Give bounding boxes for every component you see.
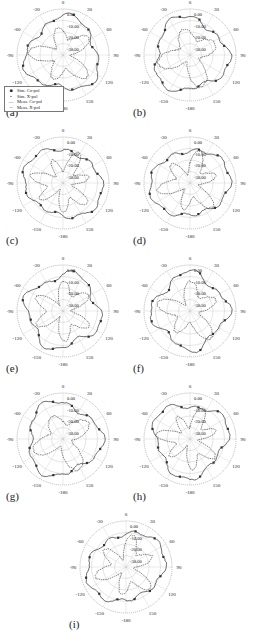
svg-text:120: 120 xyxy=(105,208,113,213)
svg-text:-10.00: -10.00 xyxy=(67,24,80,29)
polar-plot-g: 0306090120150-180-150-120-90-60-300.00-1… xyxy=(0,384,127,509)
svg-text:30: 30 xyxy=(87,135,93,140)
svg-text:0: 0 xyxy=(62,128,65,133)
svg-text:-30.00: -30.00 xyxy=(67,47,80,52)
panel-label: (f) xyxy=(133,362,144,374)
svg-text:-30.00: -30.00 xyxy=(67,303,80,308)
svg-text:60: 60 xyxy=(106,411,112,416)
panel-label: (h) xyxy=(133,490,146,502)
polar-plot-e: 0306090120150-180-150-120-90-60-300.00-1… xyxy=(0,256,127,381)
polar-plot-h: 0306090120150-180-150-120-90-60-300.00-1… xyxy=(127,384,254,509)
svg-text:0: 0 xyxy=(189,384,192,389)
svg-text:150: 150 xyxy=(213,227,221,232)
panel-label: (c) xyxy=(6,234,18,246)
svg-text:90: 90 xyxy=(114,181,120,186)
svg-text:-90: -90 xyxy=(7,437,14,442)
svg-text:90: 90 xyxy=(114,53,120,58)
panel-label: (i) xyxy=(69,618,79,630)
svg-text:120: 120 xyxy=(232,80,240,85)
svg-text:-150: -150 xyxy=(32,355,42,360)
svg-text:0.00: 0.00 xyxy=(194,396,203,401)
svg-text:120: 120 xyxy=(232,336,240,341)
svg-text:150: 150 xyxy=(86,355,94,360)
svg-text:60: 60 xyxy=(106,283,112,288)
svg-text:30: 30 xyxy=(214,391,220,396)
svg-text:0: 0 xyxy=(62,256,65,261)
panel-label: (d) xyxy=(133,234,146,246)
svg-text:-30.00: -30.00 xyxy=(194,175,207,180)
svg-text:30: 30 xyxy=(87,263,93,268)
svg-text:90: 90 xyxy=(241,181,247,186)
svg-text:-120: -120 xyxy=(13,80,23,85)
svg-text:-120: -120 xyxy=(140,464,150,469)
svg-text:-150: -150 xyxy=(95,611,105,616)
svg-text:-180: -180 xyxy=(185,362,195,367)
svg-text:-30: -30 xyxy=(160,263,167,268)
svg-text:0.00: 0.00 xyxy=(67,396,76,401)
svg-text:-60: -60 xyxy=(14,283,21,288)
svg-text:-30: -30 xyxy=(160,135,167,140)
polar-plot-b: 0306090120150-180-150-120-90-60-300.00-1… xyxy=(127,0,254,125)
svg-text:-20.00: -20.00 xyxy=(67,35,80,40)
svg-text:0: 0 xyxy=(125,512,128,517)
svg-text:60: 60 xyxy=(106,27,112,32)
svg-text:-180: -180 xyxy=(58,362,68,367)
svg-text:-90: -90 xyxy=(70,565,77,570)
polar-plot-c: 0306090120150-180-150-120-90-60-300.00-1… xyxy=(0,128,127,253)
svg-text:-180: -180 xyxy=(121,618,131,623)
svg-text:-30: -30 xyxy=(33,7,40,12)
svg-text:-120: -120 xyxy=(140,336,150,341)
svg-text:0: 0 xyxy=(62,384,65,389)
svg-text:-120: -120 xyxy=(13,464,23,469)
svg-text:-30.00: -30.00 xyxy=(130,559,143,564)
svg-text:-120: -120 xyxy=(13,208,23,213)
svg-text:120: 120 xyxy=(232,464,240,469)
svg-text:0: 0 xyxy=(189,256,192,261)
svg-text:0.00: 0.00 xyxy=(194,140,203,145)
svg-text:-20.00: -20.00 xyxy=(67,419,80,424)
svg-text:-20.00: -20.00 xyxy=(194,419,207,424)
svg-text:120: 120 xyxy=(105,464,113,469)
polar-plot-d: 0306090120150-180-150-120-90-60-300.00-1… xyxy=(127,128,254,253)
svg-text:150: 150 xyxy=(149,611,157,616)
svg-text:90: 90 xyxy=(241,53,247,58)
svg-text:-60: -60 xyxy=(14,27,21,32)
svg-text:-20.00: -20.00 xyxy=(194,291,207,296)
svg-text:-90: -90 xyxy=(134,181,141,186)
svg-text:120: 120 xyxy=(168,592,176,597)
svg-text:-60: -60 xyxy=(141,411,148,416)
svg-text:-30.00: -30.00 xyxy=(194,431,207,436)
svg-text:120: 120 xyxy=(232,208,240,213)
svg-text:-30: -30 xyxy=(33,391,40,396)
svg-text:-10.00: -10.00 xyxy=(67,408,80,413)
svg-text:-150: -150 xyxy=(32,483,42,488)
svg-text:-30: -30 xyxy=(160,391,167,396)
svg-text:90: 90 xyxy=(114,309,120,314)
svg-text:150: 150 xyxy=(213,99,221,104)
svg-text:-120: -120 xyxy=(76,592,86,597)
svg-text:-30.00: -30.00 xyxy=(67,431,80,436)
svg-text:60: 60 xyxy=(233,283,239,288)
svg-text:-30: -30 xyxy=(160,7,167,12)
svg-text:-180: -180 xyxy=(185,106,195,111)
svg-text:-90: -90 xyxy=(7,181,14,186)
svg-text:-60: -60 xyxy=(77,539,84,544)
legend-label: Meas. X-pol xyxy=(17,105,40,111)
svg-text:-150: -150 xyxy=(32,227,42,232)
svg-text:150: 150 xyxy=(213,355,221,360)
svg-text:-90: -90 xyxy=(134,53,141,58)
svg-text:30: 30 xyxy=(150,519,156,524)
svg-text:-60: -60 xyxy=(141,283,148,288)
panel-label: (e) xyxy=(6,362,18,374)
svg-text:150: 150 xyxy=(86,227,94,232)
svg-text:-120: -120 xyxy=(140,208,150,213)
svg-text:0: 0 xyxy=(189,128,192,133)
svg-text:-180: -180 xyxy=(185,234,195,239)
svg-text:120: 120 xyxy=(105,336,113,341)
svg-text:90: 90 xyxy=(241,309,247,314)
svg-text:-10.00: -10.00 xyxy=(67,280,80,285)
svg-text:-20.00: -20.00 xyxy=(194,163,207,168)
svg-text:0: 0 xyxy=(189,0,192,5)
svg-text:-180: -180 xyxy=(58,490,68,495)
svg-text:-90: -90 xyxy=(134,437,141,442)
